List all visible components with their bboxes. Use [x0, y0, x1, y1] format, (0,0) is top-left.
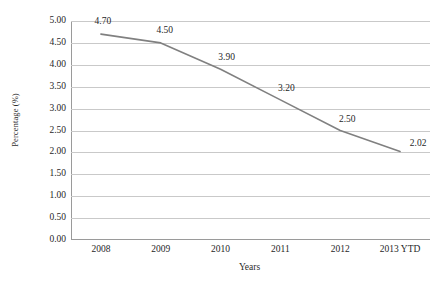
y-axis-title: Percentage (%): [6, 0, 24, 240]
y-axis-tick-label: 4.00: [24, 60, 71, 70]
x-axis-tick-label: 2011: [271, 245, 290, 255]
x-axis-tick-label: 2013 YTD: [380, 245, 421, 255]
data-point-label: 2.02: [410, 139, 427, 149]
y-axis-tick-label: 2.00: [24, 148, 71, 158]
y-axis-title-text: Percentage (%): [10, 93, 20, 147]
data-point-label: 4.50: [156, 26, 173, 36]
x-axis-tick-label: 2010: [211, 245, 230, 255]
series-line: [71, 21, 430, 240]
y-axis-tick-label: 4.50: [24, 38, 71, 48]
x-axis-tick-label: 2012: [331, 245, 350, 255]
x-axis-tick-label: 2009: [151, 245, 170, 255]
y-axis-tick-label: 3.50: [24, 82, 71, 92]
x-axis-tick-label: 2008: [91, 245, 110, 255]
plot-area: 4.704.503.903.202.502.02: [71, 21, 430, 240]
data-point-label: 2.50: [339, 115, 356, 125]
data-point-label: 4.70: [95, 17, 112, 27]
y-axis-tick-label: 2.50: [24, 126, 71, 136]
data-point-label: 3.90: [218, 53, 235, 63]
data-point-label: 3.20: [278, 84, 295, 94]
x-axis-title-text: Years: [239, 262, 260, 272]
y-axis-tick-label: 0.50: [24, 213, 71, 223]
x-axis-title: Years: [0, 262, 445, 272]
y-axis-tick-label: 1.00: [24, 191, 71, 201]
line-chart: Percentage (%) 5.004.504.003.503.002.502…: [0, 0, 445, 294]
series-polyline: [101, 34, 400, 151]
x-axis-tick-labels: 200820092010201120122013 YTD: [0, 241, 445, 263]
y-axis-tick-label: 3.00: [24, 104, 71, 114]
y-axis-tick-label: 1.50: [24, 170, 71, 180]
y-axis-tick-label: 5.00: [24, 16, 71, 26]
